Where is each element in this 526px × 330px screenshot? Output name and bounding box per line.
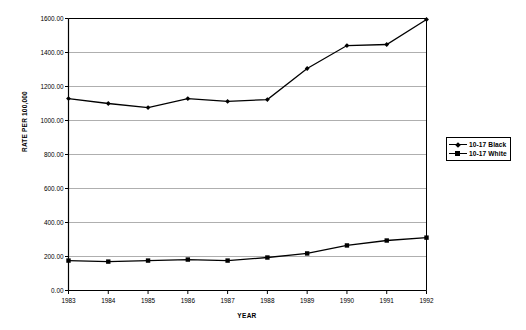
series-line-0 [69, 20, 427, 108]
legend-label-white: 10-17 White [467, 150, 507, 157]
data-point-marker [385, 238, 389, 242]
data-point-marker [225, 258, 229, 262]
data-point-marker [225, 99, 230, 104]
data-point-marker [66, 96, 71, 101]
y-tick-label: 400.00 [20, 219, 64, 226]
legend-item-white: 10-17 White [449, 149, 507, 158]
data-point-marker [66, 258, 70, 262]
legend-swatch-diamond-icon [449, 140, 467, 149]
data-point-marker [146, 258, 150, 262]
y-tick-label: 200.00 [20, 253, 64, 260]
data-point-marker [265, 255, 269, 259]
data-point-marker [106, 259, 110, 263]
y-tick-label: 1000.00 [20, 117, 64, 124]
data-point-marker [424, 235, 428, 239]
x-tick-label: 1983 [49, 297, 89, 304]
data-point-marker [305, 251, 309, 255]
x-tick-label: 1990 [327, 297, 367, 304]
chart-figure: RATE PER 100,000 YEAR 0.00200.00400.0060… [0, 0, 526, 330]
x-tick-label: 1986 [168, 297, 208, 304]
data-point-marker [185, 96, 190, 101]
x-tick-label: 1991 [367, 297, 407, 304]
x-axis-title: YEAR [68, 312, 426, 319]
legend-swatch-square-icon [449, 149, 467, 158]
y-tick-label: 600.00 [20, 185, 64, 192]
series-line-1 [69, 238, 427, 262]
data-point-marker [345, 243, 349, 247]
x-tick-label: 1984 [88, 297, 128, 304]
data-point-marker [186, 257, 190, 261]
data-point-marker [146, 105, 151, 110]
line-chart-plot [0, 0, 526, 330]
x-tick-label: 1985 [128, 297, 168, 304]
legend-label-black: 10-17 Black [467, 141, 506, 148]
x-tick-label: 1987 [208, 297, 248, 304]
x-tick-label: 1988 [247, 297, 287, 304]
y-tick-label: 1400.00 [20, 49, 64, 56]
x-tick-label: 1989 [287, 297, 327, 304]
data-point-marker [106, 101, 111, 106]
y-tick-label: 800.00 [20, 151, 64, 158]
legend-item-black: 10-17 Black [449, 140, 507, 149]
y-tick-label: 0.00 [20, 287, 64, 294]
x-tick-label: 1992 [407, 297, 447, 304]
y-tick-label: 1600.00 [20, 15, 64, 22]
y-tick-label: 1200.00 [20, 83, 64, 90]
chart-legend: 10-17 Black 10-17 White [446, 137, 511, 161]
